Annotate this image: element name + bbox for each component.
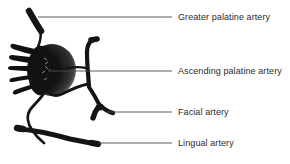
descending-vessel	[28, 93, 44, 143]
label-lingual-artery: Lingual artery	[178, 138, 234, 148]
label-facial-artery: Facial artery	[178, 107, 229, 117]
label-greater-palatine-artery: Greater palatine artery	[178, 12, 270, 22]
lingual-vessel	[17, 128, 98, 144]
tonsil-mass	[8, 44, 76, 96]
anatomy-illustration	[0, 0, 290, 164]
anatomy-figure: Greater palatine artery Ascending palati…	[0, 0, 290, 164]
greater-palatine-vessel	[29, 11, 41, 47]
label-ascending-palatine-artery: Ascending palatine artery	[178, 66, 282, 76]
facial-vessel	[89, 87, 113, 118]
